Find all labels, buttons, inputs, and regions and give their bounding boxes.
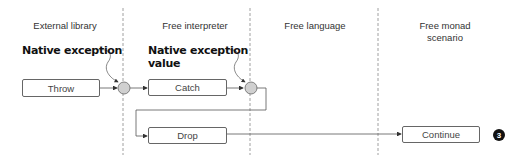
lane-title-free-language: Free language [270, 20, 360, 32]
junction-node [118, 82, 130, 94]
callout-line: value [148, 57, 248, 70]
catch-box: Catch [148, 79, 227, 96]
callout-line: Native exception [148, 44, 248, 57]
throw-box: Throw [22, 79, 100, 97]
lane-title-line: scenario [400, 32, 490, 44]
callout-native-exception-value: Native exception value [148, 44, 248, 70]
lane-title-free-monad-scenario: Free monad scenario [400, 20, 490, 44]
continue-box: Continue [402, 126, 480, 143]
lane-title-free-interpreter: Free interpreter [150, 20, 240, 32]
junction-node [245, 82, 257, 94]
step-number-badge: 3 [493, 129, 505, 141]
callout-native-exception: Native exception [22, 44, 122, 57]
drop-box: Drop [148, 127, 227, 144]
lane-title-line: Free monad [400, 20, 490, 32]
lane-title-external-library: External library [20, 20, 110, 32]
